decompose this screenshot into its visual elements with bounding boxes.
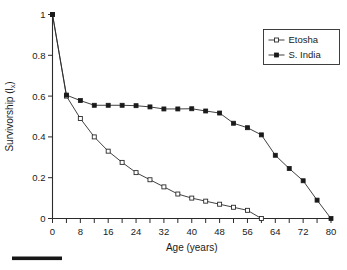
data-point-s-india-36: [176, 107, 180, 111]
y-tick-label-0.6: 0.6: [32, 91, 45, 102]
data-point-etosha-44: [204, 199, 208, 203]
scale-bar: [12, 257, 62, 261]
x-tick-label-80: 80: [326, 226, 337, 237]
data-point-etosha-56: [245, 208, 249, 212]
y-tick-label-1: 1: [40, 9, 45, 20]
data-point-s-india-44: [204, 109, 208, 113]
x-tick-label-56: 56: [242, 226, 253, 237]
data-point-s-india-76: [315, 198, 319, 202]
data-point-etosha-20: [120, 160, 124, 164]
data-point-etosha-28: [148, 178, 152, 182]
survivorship-line-chart: 08162432404856647280Age (years)00.20.40.…: [0, 0, 347, 270]
legend-marker-0: [275, 38, 279, 42]
data-point-etosha-60: [259, 217, 263, 221]
data-point-s-india-28: [148, 105, 152, 109]
data-point-s-india-52: [232, 121, 236, 125]
x-tick-label-72: 72: [298, 226, 309, 237]
x-tick-label-48: 48: [214, 226, 225, 237]
data-point-s-india-16: [106, 103, 110, 107]
x-tick-label-64: 64: [270, 226, 281, 237]
legend-label-0: Etosha: [289, 34, 319, 45]
data-point-s-india-68: [287, 167, 291, 171]
legend-label-1: S. India: [289, 49, 322, 60]
data-point-s-india-32: [162, 107, 166, 111]
data-point-etosha-32: [162, 185, 166, 189]
y-tick-label-0: 0: [40, 213, 45, 224]
data-point-s-india-64: [273, 153, 277, 157]
data-point-etosha-36: [176, 192, 180, 196]
y-tick-label-0.2: 0.2: [32, 172, 45, 183]
y-tick-label-0.4: 0.4: [32, 131, 45, 142]
y-tick-label-0.8: 0.8: [32, 50, 45, 61]
data-point-s-india-40: [190, 107, 194, 111]
data-point-s-india-48: [218, 111, 222, 115]
data-point-s-india-80: [329, 217, 333, 221]
x-tick-label-32: 32: [159, 226, 170, 237]
data-point-s-india-12: [92, 103, 96, 107]
series-line-etosha: [53, 15, 262, 219]
data-point-s-india-24: [134, 104, 138, 108]
data-point-etosha-48: [218, 202, 222, 206]
data-point-s-india-72: [301, 179, 305, 183]
x-tick-label-8: 8: [78, 226, 83, 237]
x-tick-label-24: 24: [131, 226, 142, 237]
data-point-etosha-16: [106, 149, 110, 153]
data-point-s-india-8: [78, 99, 82, 103]
data-point-etosha-24: [134, 171, 138, 175]
data-point-s-india-4: [64, 93, 68, 97]
y-axis-title: Survivorship (lx): [4, 81, 16, 151]
data-point-etosha-52: [232, 205, 236, 209]
figure-container: 08162432404856647280Age (years)00.20.40.…: [0, 0, 347, 270]
data-point-s-india-20: [120, 103, 124, 107]
data-point-s-india-60: [259, 133, 263, 137]
data-point-s-india-0: [51, 13, 55, 17]
data-point-etosha-8: [78, 117, 82, 121]
x-tick-label-0: 0: [50, 226, 55, 237]
x-tick-label-40: 40: [186, 226, 197, 237]
data-point-etosha-40: [190, 196, 194, 200]
x-tick-label-16: 16: [103, 226, 114, 237]
data-point-s-india-56: [245, 126, 249, 130]
x-axis-title: Age (years): [166, 242, 218, 253]
legend-marker-1: [275, 53, 279, 57]
data-point-etosha-12: [92, 135, 96, 139]
